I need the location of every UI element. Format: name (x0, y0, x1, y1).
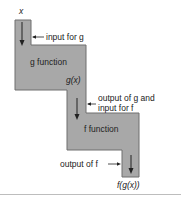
divider-rule (0, 194, 181, 195)
f-box-label: f function (84, 124, 119, 134)
middle-annotation-line2: input for f (98, 103, 133, 113)
input-label: x (19, 6, 23, 16)
output-pointer-icon (108, 162, 121, 165)
final-output-label: f(g(x)) (117, 180, 140, 190)
middle-pointer-icon (87, 102, 96, 105)
g-output-label: g(x) (66, 75, 81, 85)
f-output-annotation: output of f (60, 159, 98, 169)
middle-annotation-line1: output of g and (98, 93, 155, 103)
input-pointer-icon (32, 35, 44, 38)
input-annotation: input for g (46, 32, 84, 42)
g-box-label: g function (30, 57, 67, 67)
